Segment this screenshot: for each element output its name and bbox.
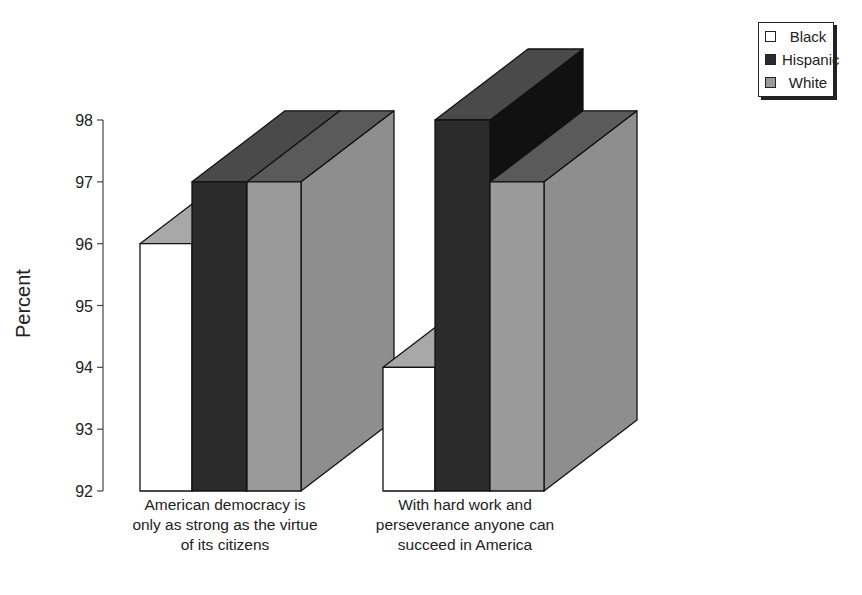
y-tick-label: 92 [75,483,93,500]
legend: Black Hispanic White [758,22,834,97]
bar-front-black [140,244,192,491]
y-axis-label: Percent [12,269,35,338]
y-tick-label: 95 [75,298,93,315]
legend-label: Black [782,28,834,45]
y-tick-label: 98 [75,112,93,129]
bar-front-white [490,182,544,491]
x-label-line: American democracy is [110,495,340,515]
y-tick-label: 94 [75,359,93,376]
bar-front-hispanic [192,182,247,491]
x-label-line: succeed in America [350,535,580,555]
bar-front-black [383,367,435,491]
y-tick-label: 97 [75,174,93,191]
legend-swatch-hispanic [765,54,776,65]
legend-item-white: White [765,72,834,92]
x-category-label-1: American democracy is only as strong as … [110,495,340,555]
legend-label: White [782,74,834,91]
legend-item-black: Black [765,26,834,46]
y-tick-label: 93 [75,421,93,438]
legend-item-hispanic: Hispanic [765,49,834,69]
x-category-label-2: With hard work and perseverance anyone c… [350,495,580,555]
legend-label: Hispanic [782,51,834,68]
x-label-line: of its citizens [110,535,340,555]
legend-swatch-white [765,77,776,88]
y-tick-label: 96 [75,236,93,253]
legend-swatch-black [765,31,776,42]
x-label-line: only as strong as the virtue [110,515,340,535]
x-label-line: With hard work and [350,495,580,515]
bar-front-white [247,182,301,491]
x-label-line: perseverance anyone can [350,515,580,535]
bar-front-hispanic [435,120,490,491]
